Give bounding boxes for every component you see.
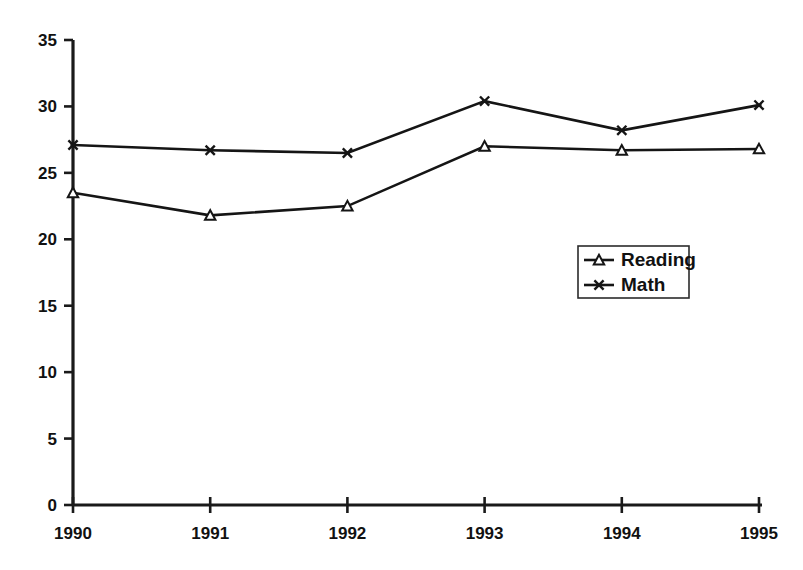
chart-canvas: 05101520253035 199019911992199319941995 …	[0, 0, 803, 570]
datapoint-reading-1991-marker-triangle	[205, 210, 215, 220]
datapoint-reading-1992-marker-triangle	[342, 201, 352, 211]
series-line-math	[73, 101, 759, 153]
y-tick-label: 0	[48, 496, 57, 515]
series-reading	[68, 141, 764, 220]
y-tick-label: 30	[38, 97, 57, 116]
y-tick-label: 35	[38, 31, 57, 50]
datapoint-reading-1995-marker-triangle	[754, 144, 764, 154]
y-axis-ticks: 05101520253035	[38, 31, 73, 515]
x-tick-label: 1992	[328, 524, 366, 543]
datapoint-reading-1993-marker-triangle	[479, 141, 489, 151]
y-tick-label: 10	[38, 363, 57, 382]
legend-label: Math	[621, 274, 665, 295]
y-tick-label: 5	[48, 430, 57, 449]
line-chart: 05101520253035 199019911992199319941995 …	[0, 0, 803, 570]
y-tick-label: 25	[38, 164, 57, 183]
y-tick-label: 15	[38, 297, 57, 316]
x-tick-label: 1990	[54, 524, 92, 543]
y-tick-label: 20	[38, 230, 57, 249]
series-layer	[68, 97, 764, 220]
x-tick-label: 1995	[740, 524, 778, 543]
x-tick-label: 1994	[603, 524, 641, 543]
datapoint-reading-1990-marker-triangle	[68, 188, 78, 198]
x-tick-label: 1993	[466, 524, 504, 543]
chart-legend: ReadingMath	[578, 246, 696, 298]
datapoint-reading-1994-marker-triangle	[617, 145, 627, 155]
series-line-reading	[73, 146, 759, 215]
series-math	[68, 97, 763, 158]
legend-label: Reading	[621, 249, 696, 270]
x-tick-label: 1991	[191, 524, 229, 543]
